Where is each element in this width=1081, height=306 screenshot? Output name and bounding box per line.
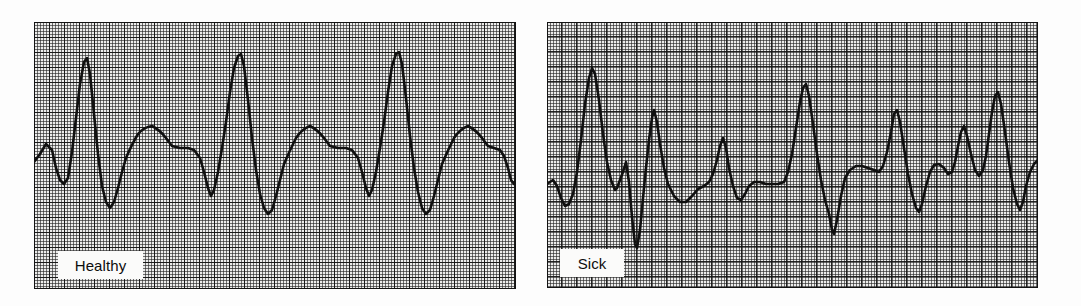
panel-label-sick: Sick <box>560 249 624 277</box>
panel-label-healthy-text: Healthy <box>75 258 127 273</box>
figure-container: Healthy Sick <box>0 0 1081 306</box>
ecg-panel-sick: Sick <box>547 22 1038 288</box>
panel-label-healthy: Healthy <box>58 251 143 279</box>
ecg-waveform-healthy <box>34 22 516 289</box>
panel-label-sick-text: Sick <box>578 256 607 271</box>
ecg-panel-healthy: Healthy <box>34 22 516 289</box>
